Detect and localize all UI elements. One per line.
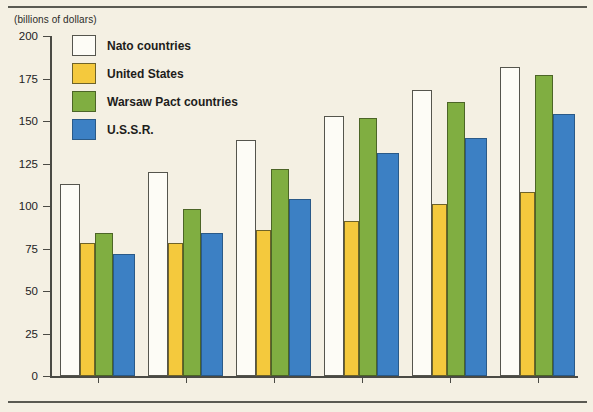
y-axis-tick — [43, 164, 50, 165]
y-axis-tick — [43, 36, 50, 37]
y-axis-tick — [43, 376, 50, 377]
y-axis-tick-label: 125 — [19, 158, 38, 170]
x-axis-tick — [362, 376, 363, 383]
figure-bottom-rule — [8, 401, 587, 403]
x-axis-tick — [538, 376, 539, 383]
legend-label-us: United States — [107, 67, 184, 81]
bar-wp-1970 — [95, 233, 113, 376]
bar-wp-1974 — [271, 169, 289, 376]
y-axis-unit-label: (billions of dollars) — [14, 14, 97, 25]
bar-group-1974 — [236, 140, 311, 376]
bar-group-1977 — [412, 90, 487, 376]
legend-swatch-us — [72, 63, 96, 84]
bar-nato-1974 — [236, 140, 256, 376]
y-axis-tick-label: 175 — [19, 73, 38, 85]
bar-su-1977 — [465, 138, 487, 376]
bar-group-1978 — [500, 67, 575, 376]
bar-group-1970 — [60, 184, 135, 376]
legend-swatch-wp — [72, 91, 96, 112]
y-axis-line — [50, 36, 52, 378]
y-axis-tick-label: 150 — [19, 115, 38, 127]
bar-us-1977 — [432, 204, 447, 376]
y-axis-tick — [43, 206, 50, 207]
legend-label-su: U.S.S.R. — [107, 123, 154, 137]
bar-wp-1976 — [359, 118, 377, 376]
y-axis-tick — [43, 291, 50, 292]
legend-swatch-su — [72, 119, 96, 140]
legend-item-us: United States — [72, 61, 238, 86]
bar-su-1976 — [377, 153, 399, 376]
y-axis-tick — [43, 121, 50, 122]
x-axis-tick — [450, 376, 451, 383]
bar-us-1974 — [256, 230, 271, 376]
y-axis-tick — [43, 334, 50, 335]
bar-wp-1972 — [183, 209, 201, 376]
bar-su-1978 — [553, 114, 575, 376]
bar-chart-figure: (billions of dollars) 200175150125100755… — [0, 0, 593, 412]
legend-label-wp: Warsaw Pact countries — [107, 95, 238, 109]
legend-item-nato: Nato countries — [72, 33, 238, 58]
bar-us-1976 — [344, 221, 359, 376]
bar-su-1972 — [201, 233, 223, 376]
bar-us-1978 — [520, 192, 535, 376]
legend-swatch-nato — [72, 35, 96, 56]
bar-wp-1978 — [535, 75, 553, 376]
bar-nato-1970 — [60, 184, 80, 376]
y-axis-tick-label: 50 — [25, 285, 38, 297]
bar-us-1970 — [80, 243, 95, 376]
legend-item-wp: Warsaw Pact countries — [72, 89, 238, 114]
x-axis-tick — [186, 376, 187, 383]
y-axis-tick-label: 100 — [19, 200, 38, 212]
legend: Nato countriesUnited StatesWarsaw Pact c… — [72, 33, 238, 145]
bar-group-1976 — [324, 116, 399, 376]
y-axis-tick — [43, 79, 50, 80]
y-axis-tick-label: 75 — [25, 243, 38, 255]
bar-nato-1976 — [324, 116, 344, 376]
y-axis-tick-label: 0 — [32, 370, 38, 382]
bar-nato-1977 — [412, 90, 432, 376]
bar-su-1974 — [289, 199, 311, 376]
figure-top-rule — [8, 6, 587, 8]
y-axis-tick — [43, 249, 50, 250]
legend-item-su: U.S.S.R. — [72, 117, 238, 142]
legend-label-nato: Nato countries — [107, 39, 191, 53]
bar-us-1972 — [168, 243, 183, 376]
y-axis-tick-label: 25 — [25, 328, 38, 340]
bar-group-1972 — [148, 172, 223, 376]
x-axis-line — [50, 376, 578, 378]
x-axis-tick — [98, 376, 99, 383]
bar-wp-1977 — [447, 102, 465, 376]
x-axis-tick — [274, 376, 275, 383]
y-axis-tick-label: 200 — [19, 30, 38, 42]
bar-nato-1972 — [148, 172, 168, 376]
bar-su-1970 — [113, 254, 135, 376]
bar-nato-1978 — [500, 67, 520, 376]
